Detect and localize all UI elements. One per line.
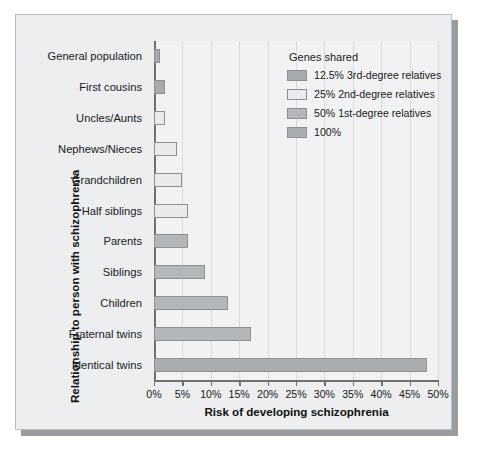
legend-entry: 50% 1st-degree relatives [287, 105, 457, 121]
legend: Genes shared 12.5% 3rd-degree relatives2… [287, 51, 457, 143]
chart-canvas: General populationFirst cousinsUncles/Au… [0, 0, 498, 456]
legend-entry: 100% [287, 124, 457, 140]
y-label-first-cousins: First cousins [16, 80, 149, 94]
gridline [268, 41, 269, 380]
legend-swatch [287, 127, 307, 138]
bar-first-cousins [154, 80, 165, 94]
bar-general-population [154, 49, 160, 63]
y-label-children: Children [16, 296, 149, 310]
legend-label: 50% 1st-degree relatives [314, 107, 431, 119]
y-label-fraternal-twins: Fraternal twins [16, 327, 149, 341]
y-label-general-population: General population [16, 49, 149, 63]
legend-swatch [287, 70, 307, 81]
panel-shadow-bottom [21, 430, 458, 436]
x-tick [211, 381, 212, 386]
y-label-parents: Parents [16, 234, 149, 248]
x-tick [438, 381, 439, 386]
bar-children [154, 296, 228, 310]
legend-title: Genes shared [287, 51, 457, 63]
bar-fraternal-twins [154, 327, 251, 341]
x-tick [353, 381, 354, 386]
y-label-siblings: Siblings [16, 265, 149, 279]
bar-half-siblings [154, 204, 188, 218]
legend-label: 100% [314, 126, 341, 138]
bar-parents [154, 234, 188, 248]
legend-entry: 12.5% 3rd-degree relatives [287, 67, 457, 83]
y-label-nephews-nieces: Nephews/Nieces [16, 142, 149, 156]
y-axis-title: Relationship to person with schizophreni… [68, 167, 81, 407]
x-tick-label: 50% [418, 388, 458, 400]
chart-panel: General populationFirst cousinsUncles/Au… [15, 14, 452, 430]
x-tick [324, 381, 325, 386]
y-label-uncles-aunts: Uncles/Aunts [16, 111, 149, 125]
bar-identical-twins [154, 358, 427, 372]
x-tick [154, 381, 155, 386]
bar-grandchildren [154, 173, 182, 187]
legend-label: 25% 2nd-degree relatives [314, 88, 435, 100]
x-tick [182, 381, 183, 386]
x-axis-title: Risk of developing schizophrenia [154, 405, 439, 418]
y-label-grandchildren: Grandchildren [16, 173, 149, 187]
legend-entries: 12.5% 3rd-degree relatives25% 2nd-degree… [287, 67, 457, 140]
x-tick [296, 381, 297, 386]
legend-label: 12.5% 3rd-degree relatives [314, 69, 441, 81]
x-tick [239, 381, 240, 386]
x-tick [268, 381, 269, 386]
x-tick [410, 381, 411, 386]
legend-swatch [287, 108, 307, 119]
y-label-identical-twins: Identical twins [16, 358, 149, 372]
legend-swatch [287, 89, 307, 100]
bar-uncles-aunts [154, 111, 165, 125]
y-label-half-siblings: Half siblings [16, 204, 149, 218]
y-axis-title-box: Relationship to person with schizophreni… [40, 95, 56, 345]
legend-entry: 25% 2nd-degree relatives [287, 86, 457, 102]
bar-siblings [154, 265, 205, 279]
bar-nephews-nieces [154, 142, 177, 156]
x-tick [381, 381, 382, 386]
